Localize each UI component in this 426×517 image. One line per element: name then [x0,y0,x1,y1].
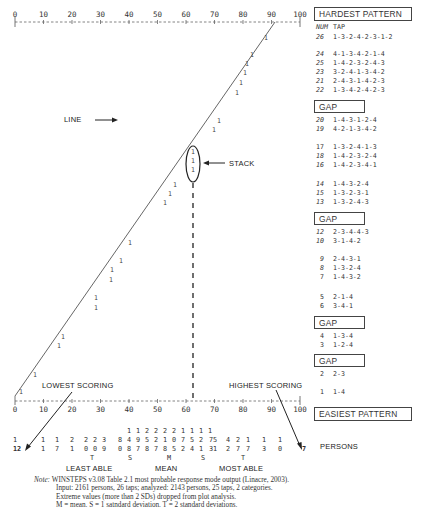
stack-label: STACK [229,159,254,168]
person-count-digit: 2 [172,427,176,435]
bottom-tick-40: 40 [124,405,133,414]
top-tick-80: 80 [238,10,247,19]
note-line-4: M = mean. S = 1 satndard deviation. T = … [34,501,289,509]
point-marker: 1 [191,157,195,165]
top-tick-40: 40 [124,10,133,19]
two-sd-marker: T [241,454,245,462]
top-tick-10: 10 [39,10,48,19]
point-marker: 1 [110,266,114,274]
person-count-digit: 4 [127,436,131,444]
bottom-tick-20: 20 [67,405,76,414]
top-tick-90: 90 [267,10,276,19]
person-count-digit: 9 [102,445,106,453]
persons-label: PERSONS [320,442,358,451]
figure-note: Note: WINSTEPS v3.08 Table 2.1 most prob… [34,476,289,510]
top-tick-20: 20 [67,10,76,19]
note-line-1: WINSTEPS v3.08 Table 2.1 most probable r… [52,476,289,484]
one-sd-marker: S [201,454,205,462]
person-count-digit: 2 [236,436,240,444]
person-count-digit: 0 [278,445,282,453]
person-count-digit: 0 [118,445,122,453]
person-count-digit: 1 [181,427,185,435]
point-marker: 1 [33,371,37,379]
person-count-digit: 1 [55,436,59,444]
point-marker: 1 [173,181,177,189]
point-marker: 1 [245,60,249,68]
person-count-digit: 0 [84,445,88,453]
lowest-scoring-arrow [28,392,72,447]
person-count-digit: 8 [127,445,131,453]
least-able-label: LEAST ABLE [66,464,112,473]
note-prefix: Note: [34,476,50,484]
tap-header: TAP [333,23,345,31]
person-count-digit: 2 [226,445,230,453]
person-count-digit: 0 [172,436,176,444]
most-able-label: MOST ABLE [219,464,263,473]
person-count-digit: 8 [118,436,122,444]
person-count-digit: 1 [199,427,203,435]
person-count-digit: 8 [145,445,149,453]
point-marker: 1 [235,89,239,97]
person-count-digit: 1 [41,445,45,453]
gap-box: GAP [314,100,365,113]
person-count-digit: 4 [226,436,230,444]
person-count-digit: 2 [93,436,97,444]
person-count-digit: 2 [199,436,203,444]
person-count-digit: 7 [136,445,140,453]
bottom-tick-60: 60 [181,405,190,414]
person-count-digit: 5 [190,436,194,444]
point-marker: 1 [57,342,61,350]
point-marker: 1 [217,117,221,125]
top-tick-100: 100 [293,10,307,19]
easiest-pattern-box: EASIEST PATTERN [314,407,412,421]
person-count-digit: 1 [136,427,140,435]
point-marker: 1 [168,190,172,198]
gap-box: GAP [314,354,365,367]
person-count-digit: 1 [190,427,194,435]
num-header: NUM [316,23,328,31]
bottom-tick-70: 70 [210,405,219,414]
person-count-digit: 8 [163,445,167,453]
person-count-digit: 2 [154,427,158,435]
person-count-digit: 7 [302,445,306,453]
mean-marker: M [167,454,171,462]
person-count-digit: 4 [190,445,194,453]
bottom-tick-80: 80 [238,405,247,414]
bottom-tick-50: 50 [153,405,162,414]
person-count-digit: 1 [41,436,45,444]
person-count-digit: 7 [55,445,59,453]
point-marker: 1 [212,126,216,134]
top-tick-60: 60 [181,10,190,19]
gap-box: GAP [314,316,365,329]
point-marker: 1 [191,166,195,174]
point-marker: 1 [128,239,132,247]
person-count-digit: 5 [145,436,149,444]
person-count-digit: 5 [172,445,176,453]
lowest-scoring-label: LOWEST SCORING [42,381,113,390]
point-marker: 1 [243,69,247,77]
person-count-digit: 1 [13,436,17,444]
person-count-digit: 7 [236,445,240,453]
hardest-pattern-box: HARDEST PATTERN [314,7,412,21]
note-line-2: Input: 2161 persons, 26 taps; analyzed: … [34,484,289,492]
bottom-tick-30: 30 [96,405,105,414]
diagonal-line [15,22,275,396]
bottom-tick-0: 0 [13,405,18,414]
top-tick-30: 30 [96,10,105,19]
bottom-tick-100: 100 [293,405,307,414]
person-count-digit: 9 [136,436,140,444]
person-count-digit: 1 [262,436,266,444]
person-count-digit: 2 [70,436,74,444]
top-tick-70: 70 [210,10,219,19]
point-marker: 1 [119,257,123,265]
person-count-digit: 2 [181,445,185,453]
person-count-digit: 2 [163,427,167,435]
person-count-digit: 1 [208,427,212,435]
person-count-digit: 75 [209,436,217,444]
point-marker: 1 [94,294,98,302]
bottom-tick-10: 10 [39,405,48,414]
one-sd-marker: S [128,454,132,462]
line-label: LINE [64,115,81,124]
person-count-digit: 7 [154,445,158,453]
gap-box: GAP [314,212,365,225]
